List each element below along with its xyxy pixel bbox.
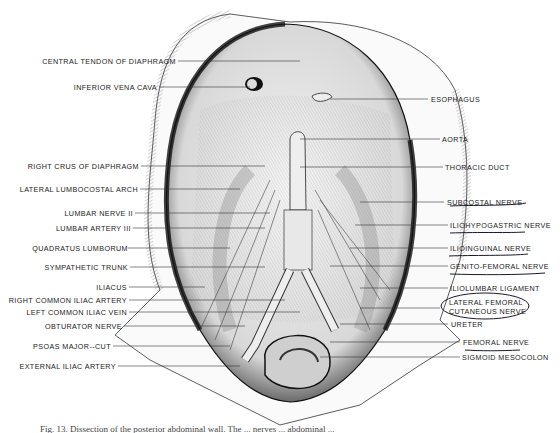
- label-ureter: URETER: [451, 320, 483, 329]
- label-lateral-lumbocostal-arch: LATERAL LUMBOCOSTAL ARCH: [20, 185, 138, 194]
- label-femoral-nerve: FEMORAL NERVE: [463, 338, 529, 347]
- label-iliohypogastric-nerve: ILIOHYPOGASTRIC NERVE: [450, 221, 551, 230]
- label-iliacus: ILIACUS: [96, 283, 127, 292]
- label-ilioinguinal-nerve: ILIOINGUINAL NERVE: [450, 244, 531, 253]
- label-iliolumbar-ligament: ILIOLUMBAR LIGAMENT: [450, 284, 540, 293]
- label-right-common-iliac-artery: RIGHT COMMON ILIAC ARTERY: [9, 296, 127, 305]
- label-sigmoid-mesocolon: SIGMOID MESOCOLON: [462, 353, 549, 362]
- label-external-iliac-artery: EXTERNAL ILIAC ARTERY: [19, 362, 116, 371]
- label-quadratus-lumborum: QUADRATUS LUMBORUM: [32, 244, 128, 253]
- label-right-crus: RIGHT CRUS OF DIAPHRAGM: [28, 162, 139, 171]
- label-subcostal-nerve: SUBCOSTAL NERVE: [447, 198, 522, 207]
- label-sympathetic-trunk: SYMPATHETIC TRUNK: [45, 263, 128, 272]
- label-lateral-femoral: LATERAL FEMORAL: [449, 298, 523, 307]
- label-left-common-iliac-vein: LEFT COMMON ILIAC VEIN: [26, 308, 127, 317]
- label-inferior-vena-cava: INFERIOR VENA CAVA: [74, 83, 157, 92]
- label-central-tendon: CENTRAL TENDON OF DIAPHRAGM: [42, 57, 176, 66]
- figure-caption: Fig. 13. Dissection of the posterior abd…: [40, 424, 335, 433]
- label-aorta: AORTA: [442, 135, 468, 144]
- label-esophagus: ESOPHAGUS: [431, 95, 480, 104]
- label-lumbar-artery-iii: LUMBAR ARTERY III: [56, 224, 131, 233]
- label-thoracic-duct: THORACIC DUCT: [445, 163, 510, 172]
- label-genito-femoral-nerve: GENITO-FEMORAL NERVE: [450, 262, 549, 271]
- label-lumbar-nerve-ii: LUMBAR NERVE II: [64, 209, 133, 218]
- label-obturator-nerve: OBTURATOR NERVE: [45, 322, 122, 331]
- label-psoas-major-cut: PSOAS MAJOR--CUT: [33, 342, 111, 351]
- anatomy-figure: CENTRAL TENDON OF DIAPHRAGM INFERIOR VEN…: [0, 0, 560, 433]
- label-cutaneous-nerve: CUTANEOUS NERVE: [449, 307, 526, 316]
